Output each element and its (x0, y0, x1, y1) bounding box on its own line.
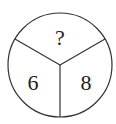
divider-upper-left (15, 39, 60, 65)
sector-top-label: ? (55, 25, 65, 50)
sector-circle-diagram: ? 6 8 (0, 0, 116, 124)
sector-bottom-left-label: 6 (28, 70, 39, 95)
divider-upper-right (60, 39, 105, 65)
sector-bottom-right-label: 8 (81, 70, 92, 95)
